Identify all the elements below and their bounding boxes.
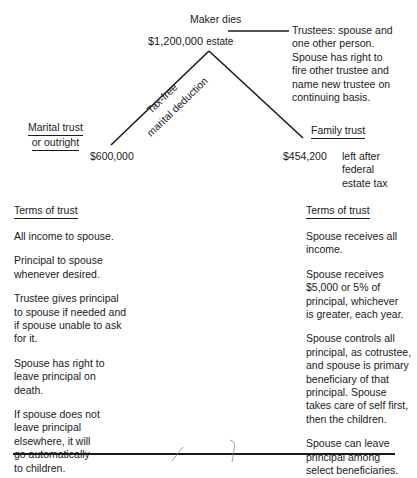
pencil-bracket-mark (230, 440, 235, 462)
right-terms-list: Spouse receives all income. Spouse recei… (306, 230, 417, 478)
right-term-item: Spouse controls all principal, as cotrus… (306, 332, 417, 426)
left-terms-list: All income to spouse. Principal to spous… (14, 230, 154, 475)
right-branch-line (209, 51, 303, 138)
trustees-note: Trustees: spouse and one other person. S… (292, 24, 417, 104)
family-amount: $454,200 (283, 150, 327, 163)
left-terms-heading-text: Terms of trust (14, 204, 78, 219)
trustees-note-text: Trustees: spouse and one other person. S… (292, 24, 417, 104)
right-terms-heading-text: Terms of trust (306, 204, 370, 219)
marital-trust-line1: Marital trust (28, 121, 83, 136)
left-term-item: All income to spouse. (14, 230, 154, 243)
estate-amount: $1,200,000 estate (148, 35, 233, 48)
family-trust-name: Family trust (311, 124, 365, 139)
estate-amount-value: $1,200,000 (148, 35, 203, 47)
right-term-item: Spouse can leave principal among select … (306, 437, 417, 477)
family-amount-note: left after federal estate tax (342, 150, 412, 190)
left-term-item: Trustee gives principal to spouse if nee… (14, 292, 154, 346)
right-terms-heading: Terms of trust (306, 204, 370, 219)
marital-amount: $600,000 (90, 150, 134, 163)
left-terms-heading: Terms of trust (14, 204, 78, 219)
maker-dies-label: Maker dies (190, 13, 241, 26)
family-amount-note-text: left after federal estate tax (342, 150, 412, 190)
left-term-item: If spouse does not leave principal elsew… (14, 408, 154, 475)
family-trust-heading: Family trust (311, 124, 365, 139)
marital-trust-line2: or outright (32, 136, 79, 151)
right-term-item: Spouse receives all income. (306, 230, 417, 257)
left-term-item: Spouse has right to leave principal on d… (14, 357, 154, 397)
marital-trust-heading: Marital trust or outright (28, 121, 83, 151)
left-term-item: Principal to spouse whenever desired. (14, 254, 154, 281)
right-term-item: Spouse receives $5,000 or 5% of principa… (306, 268, 417, 322)
estate-label: estate (206, 36, 233, 47)
